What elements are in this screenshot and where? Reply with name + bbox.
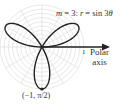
point-label: (−1, π/2)	[22, 91, 50, 100]
tick-label-1: 1	[82, 48, 86, 56]
equation-label: m = 3: r = sin 3θ	[56, 8, 113, 18]
polar-axis-label: Polaraxis	[90, 47, 109, 67]
